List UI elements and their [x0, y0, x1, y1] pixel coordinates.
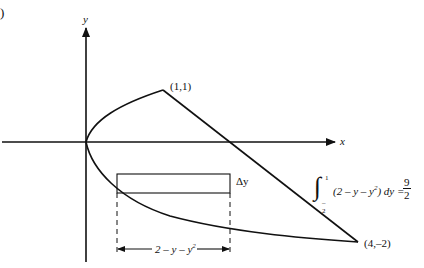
strip-width-exp: 2 [192, 242, 196, 250]
strip-width-base: 2 – y – y [155, 243, 192, 255]
integral-lower-limit: –2 [322, 199, 326, 215]
x-axis-label: x [340, 136, 345, 147]
corner-mark: ) [0, 6, 4, 19]
point-label-4-neg2: (4,–2) [364, 238, 391, 249]
integrand-post: ) dy = [377, 185, 404, 197]
result-denominator: 2 [403, 189, 411, 201]
parabola-curve [86, 90, 358, 242]
y-axis-label: y [83, 14, 88, 25]
line-segment [163, 90, 358, 242]
integrand-pre: (2 – y – y [333, 185, 374, 197]
integral-upper-limit: 1 [325, 174, 329, 182]
region-diagram [0, 0, 424, 268]
integrand: (2 – y – y2) dy = [333, 184, 404, 197]
integral-sign-icon: ∫ [314, 172, 321, 202]
delta-y-label: Δy [236, 176, 249, 187]
point-label-1-1: (1,1) [170, 81, 191, 92]
result-numerator: 9 [403, 176, 411, 189]
strip-rectangle [117, 174, 230, 193]
strip-width-label: 2 – y – y2 [154, 243, 197, 255]
result-fraction: 9 2 [403, 176, 411, 201]
